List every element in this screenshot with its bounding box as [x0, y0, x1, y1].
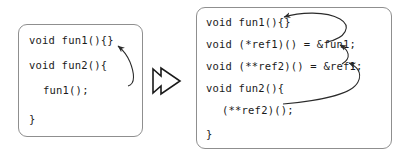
before-panel: void fun1(){} void fun2(){ fun1(); } [18, 24, 143, 137]
code-line: void fun2(){ [206, 82, 284, 94]
code-line: (**ref2)(); [222, 104, 294, 116]
thick-right-arrow-icon [150, 60, 184, 102]
code-line: } [29, 113, 36, 125]
code-line: fun1(); [43, 84, 89, 96]
code-line: void (**ref2)() = &ref1; [206, 60, 363, 72]
figure-root: void fun1(){} void fun2(){ fun1(); } voi… [0, 0, 409, 162]
after-code-block: void fun1(){} void (*ref1)() = &fun1; vo… [197, 8, 391, 148]
before-code-block: void fun1(){} void fun2(){ fun1(); } [19, 25, 142, 136]
code-line: void fun2(){ [29, 59, 107, 71]
code-line: void fun1(){} [29, 34, 114, 46]
code-line: void fun1(){} [206, 16, 291, 28]
code-line: void (*ref1)() = &fun1; [206, 38, 356, 50]
code-line: } [206, 128, 213, 140]
after-panel: void fun1(){} void (*ref1)() = &fun1; vo… [196, 7, 392, 149]
